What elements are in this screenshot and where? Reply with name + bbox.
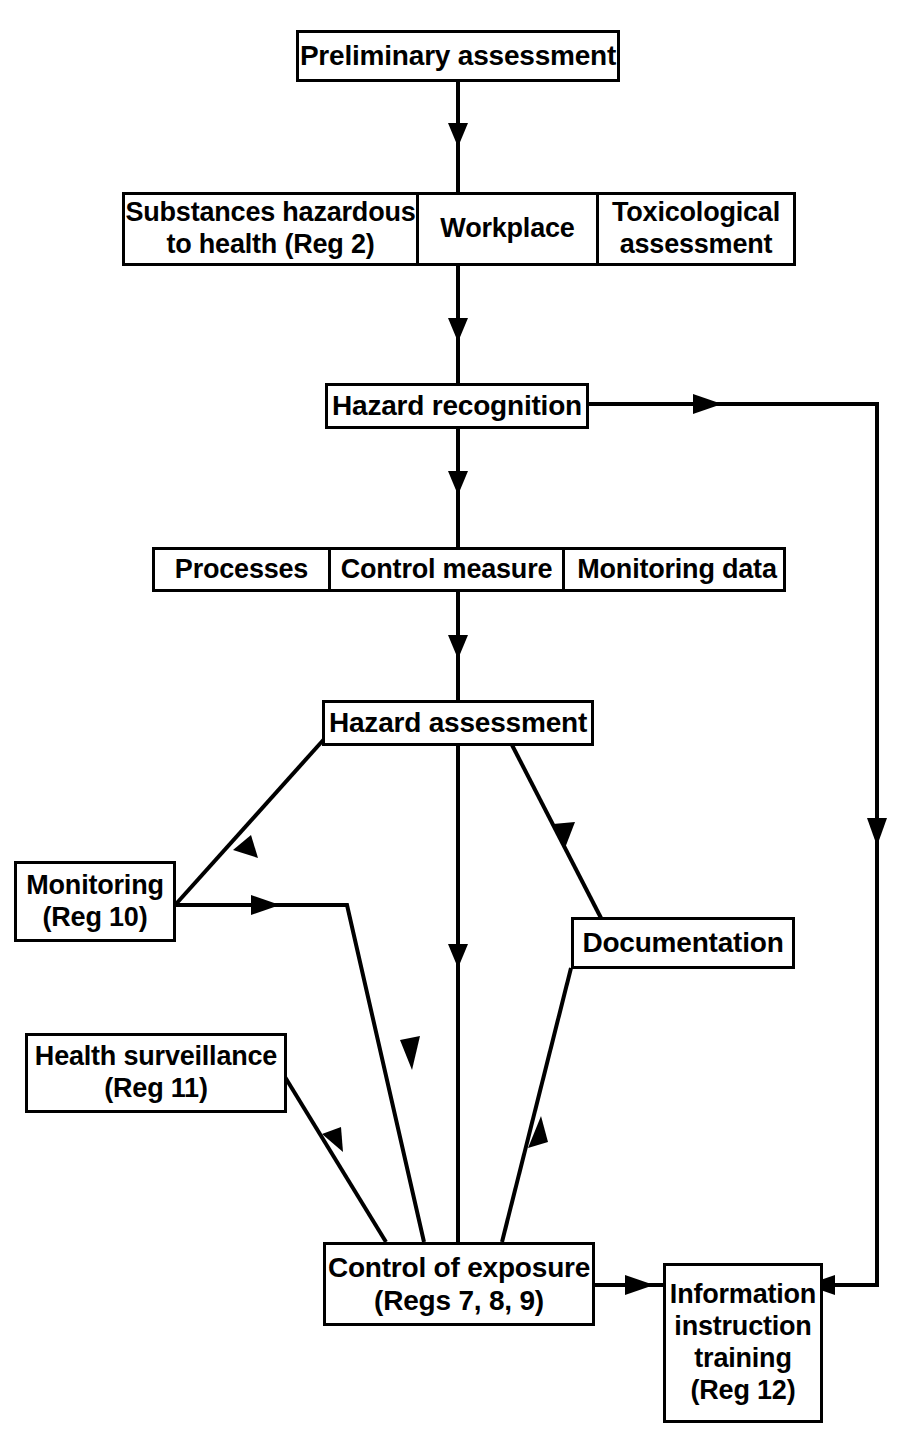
node-monitoring-data[interactable]: Monitoring data (565, 550, 789, 589)
edge-monitoring-to-hazardassess (176, 737, 326, 904)
arrowhead-hazardrecog-right (693, 394, 722, 414)
node-documentation[interactable]: Documentation (571, 917, 795, 969)
node-label: Hazard assessment (329, 706, 587, 739)
node-substances-hazardous-to-health[interactable]: Substances hazardous to health (Reg 2) (125, 195, 419, 263)
node-hazard-recognition[interactable]: Hazard recognition (325, 383, 589, 429)
flowchart-diagram: Preliminary assessment Substances hazard… (0, 0, 921, 1451)
node-label: Control measure (341, 554, 553, 586)
node-label: Control of exposure (Regs 7, 8, 9) (328, 1251, 590, 1317)
arrowhead-hazardassess-to-controlexp (448, 944, 468, 968)
arrowhead-healthsurv-to-controlexp (322, 1127, 343, 1152)
node-group-substances-row: Substances hazardous to health (Reg 2) W… (122, 192, 796, 266)
arrowhead-processes-to-hazardassess (448, 635, 468, 659)
node-health-surveillance-reg11[interactable]: Health surveillance (Reg 11) (25, 1033, 287, 1113)
arrowhead-monitoring-down-controlexp (400, 1036, 420, 1070)
node-control-of-exposure[interactable]: Control of exposure (Regs 7, 8, 9) (323, 1242, 595, 1326)
node-label: Health surveillance (Reg 11) (35, 1041, 277, 1105)
arrowhead-substances-to-hazardrecog (448, 318, 468, 342)
node-hazard-assessment[interactable]: Hazard assessment (322, 700, 594, 746)
edge-hazardrecog-to-infotrain (589, 404, 877, 1285)
node-monitoring-reg10[interactable]: Monitoring (Reg 10) (14, 861, 176, 942)
arrowhead-preliminary-to-substances (448, 123, 468, 147)
arrowhead-monitoring-to-hazardassess (233, 835, 258, 858)
node-label: Toxicological assessment (612, 197, 780, 261)
node-label: Hazard recognition (332, 389, 582, 422)
edge-healthsurv-to-controlexp (285, 1077, 386, 1242)
node-label: Substances hazardous to health (Reg 2) (125, 197, 415, 261)
node-information-instruction-training[interactable]: Information instruction training (Reg 12… (663, 1263, 823, 1423)
node-label: Workplace (440, 213, 574, 245)
node-preliminary-assessment[interactable]: Preliminary assessment (296, 30, 620, 82)
arrowhead-hazardrecog-to-processes (448, 471, 468, 495)
node-workplace[interactable]: Workplace (419, 195, 599, 263)
node-label: Documentation (582, 926, 783, 959)
node-group-processes-row: Processes Control measure Monitoring dat… (152, 547, 786, 592)
arrowhead-controlexp-to-infotrain (625, 1275, 654, 1295)
arrowhead-monitoring-right (251, 895, 280, 915)
arrowhead-hazardassess-to-documentation (553, 822, 575, 848)
edge-controlexp-to-documentation (502, 968, 571, 1242)
node-label: Preliminary assessment (300, 39, 616, 72)
arrowhead-controlexp-to-documentation (528, 1116, 548, 1148)
node-label: Processes (175, 554, 308, 586)
edge-hazardassess-to-documentation (512, 745, 601, 918)
node-toxicological-assessment[interactable]: Toxicological assessment (599, 195, 793, 263)
arrowhead-rightbus-down (867, 818, 887, 846)
node-label: Monitoring (Reg 10) (26, 870, 163, 934)
node-label: Information instruction training (Reg 12… (670, 1279, 816, 1406)
node-processes[interactable]: Processes (155, 550, 331, 589)
node-control-measure[interactable]: Control measure (331, 550, 565, 589)
node-label: Monitoring data (577, 554, 776, 586)
